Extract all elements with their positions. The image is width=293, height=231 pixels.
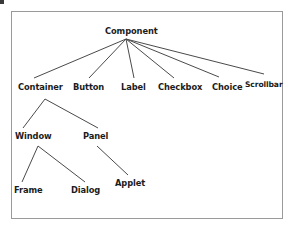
node-label-applet: Applet: [115, 178, 145, 188]
node-label-scrollbar: Scrollbar: [245, 80, 283, 90]
edges-group: [22, 39, 264, 182]
edge-window-to-frame: [22, 146, 38, 182]
node-label-button: Button: [73, 82, 104, 92]
edge-component-to-container: [34, 39, 126, 78]
edge-container-to-panel: [45, 99, 98, 128]
edge-window-to-dialog: [38, 146, 85, 182]
node-label-container: Container: [18, 82, 63, 92]
edge-component-to-button: [89, 39, 126, 78]
node-label-frame: Frame: [14, 185, 43, 195]
node-label-checkbox: Checkbox: [158, 82, 202, 92]
node-label-dialog: Dialog: [71, 185, 100, 195]
edge-panel-to-applet: [97, 146, 128, 175]
diagram-page: ComponentContainerButtonLabelCheckboxCho…: [0, 0, 293, 231]
edge-component-to-choice: [126, 39, 219, 77]
node-label-window: Window: [15, 131, 52, 141]
node-label-component: Component: [105, 26, 158, 36]
node-label-choice: Choice: [212, 82, 243, 92]
edge-component-to-scrollbar: [126, 39, 264, 74]
node-label-panel: Panel: [83, 131, 108, 141]
edge-container-to-window: [23, 99, 45, 128]
node-label-label: Label: [121, 82, 146, 92]
